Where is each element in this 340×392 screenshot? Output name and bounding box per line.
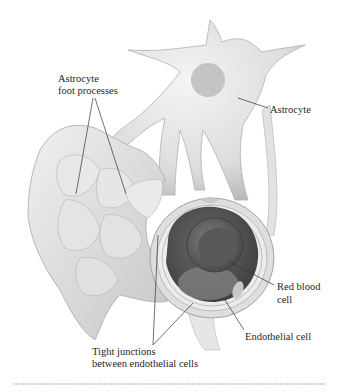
label-foot-processes-line1: Astrocyte — [58, 73, 99, 85]
leader-tight-2 — [153, 303, 193, 345]
label-rbc-line1: Red blood — [277, 281, 320, 293]
capillary-shape — [150, 197, 274, 318]
label-tight-junctions-line1: Tight junctions — [92, 346, 156, 358]
label-astrocyte: Astrocyte — [270, 104, 311, 116]
label-endothelial: Endothelial cell — [245, 331, 311, 343]
astrocyte-nucleus — [191, 63, 225, 97]
label-tight-junctions-line2: between endothelial cells — [92, 358, 198, 370]
bbb-diagram: Astrocyte foot processes Astrocyte Red b… — [0, 0, 340, 392]
label-foot-processes-line2: foot processes — [58, 85, 118, 97]
label-rbc-line2: cell — [277, 294, 292, 306]
